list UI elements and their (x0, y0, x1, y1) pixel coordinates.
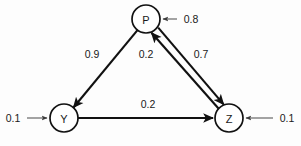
graph-svg: 0.8 0.1 0.1 0.9 0.2 0.7 (0, 0, 301, 146)
input-weight-p: 0.8 (184, 13, 199, 25)
diagram-canvas: 0.8 0.1 0.1 0.9 0.2 0.7 (0, 0, 301, 146)
edge-weight-z-to-p: 0.2 (139, 48, 154, 60)
edge-p-to-y: 0.9 (74, 30, 138, 107)
node-p[interactable]: P (132, 5, 160, 33)
node-z-label: Z (226, 113, 233, 125)
node-y[interactable]: Y (50, 104, 78, 132)
edge-y-to-z: 0.2 (78, 98, 213, 118)
edge-p-to-z: 0.7 (158, 28, 223, 105)
edge-weight-p-to-y: 0.9 (85, 48, 100, 60)
input-arrow-z: 0.1 (246, 112, 294, 124)
input-arrow-p: 0.8 (163, 13, 198, 25)
input-weight-z: 0.1 (280, 112, 295, 124)
edge-z-to-p-line (152, 33, 219, 109)
input-arrow-y: 0.1 (6, 112, 47, 124)
node-z[interactable]: Z (215, 104, 243, 132)
edge-p-to-y-line (74, 30, 138, 107)
edge-weight-p-to-z: 0.7 (194, 48, 209, 60)
edge-p-to-z-line (158, 28, 223, 105)
node-y-label: Y (60, 113, 68, 125)
node-p-label: P (142, 14, 149, 26)
input-weight-y: 0.1 (6, 112, 21, 124)
edge-weight-y-to-z: 0.2 (141, 98, 156, 110)
